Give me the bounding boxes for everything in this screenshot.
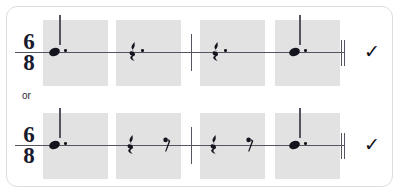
augmentation-dot-2: [304, 142, 307, 145]
note-stem: [299, 15, 301, 45]
eighth-rest-icon: [246, 137, 256, 153]
barline-mid: [191, 34, 192, 71]
eighth-rest-1: [163, 137, 173, 153]
final-barline-stroke-1: [341, 40, 342, 66]
note-stem: [59, 15, 61, 45]
final-barline-stroke-2: [344, 40, 345, 66]
final-barline-stroke-1: [341, 133, 342, 159]
quarter-rest-icon: [126, 134, 136, 156]
measure-highlight-4: [275, 20, 340, 86]
measure-highlight-3: [200, 20, 265, 86]
quarter-rest-icon: [209, 134, 219, 156]
eighth-rest-icon: [163, 137, 173, 153]
augmentation-dot-2: [141, 49, 144, 52]
quarter-rest-2: [209, 134, 219, 156]
final-double-barline: [341, 40, 346, 66]
augmentation-dot-4: [304, 49, 307, 52]
measure-highlight-4: [275, 113, 340, 179]
dotted-quarter-rest-2: [211, 41, 221, 63]
note-stem: [59, 108, 61, 138]
time-signature-numerator: 6: [18, 31, 40, 52]
final-barline-stroke-2: [344, 133, 345, 159]
status-check-top: ✓: [364, 42, 380, 61]
augmentation-dot-1: [64, 49, 67, 52]
measure-highlight-2: [116, 20, 181, 86]
augmentation-dot-3: [224, 49, 227, 52]
quarter-rest-icon: [128, 41, 138, 63]
notation-system-bottom: 6 8: [0, 90, 401, 195]
time-signature-denominator: 8: [18, 52, 40, 73]
augmentation-dot-1: [64, 142, 67, 145]
notation-figure: 6 8: [0, 0, 401, 195]
quarter-rest-1: [126, 134, 136, 156]
final-double-barline: [341, 133, 346, 159]
status-check-bottom: ✓: [364, 135, 380, 154]
dotted-quarter-rest-1: [128, 41, 138, 63]
notation-system-top: 6 8: [0, 0, 401, 95]
time-signature-denominator: 8: [18, 145, 40, 166]
note-stem: [299, 108, 301, 138]
barline-mid: [191, 127, 192, 164]
eighth-rest-2: [246, 137, 256, 153]
quarter-rest-icon: [211, 41, 221, 63]
time-signature-numerator: 6: [18, 124, 40, 145]
